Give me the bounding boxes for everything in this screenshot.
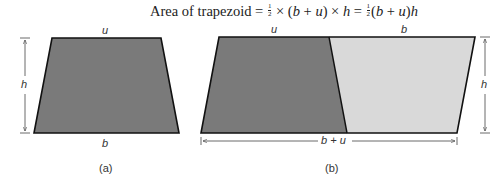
trapezoid-b-light bbox=[329, 37, 475, 133]
trapezoid-b-dark bbox=[201, 37, 347, 133]
caption-b: (b) bbox=[325, 162, 338, 174]
diagram-canvas bbox=[0, 0, 504, 184]
label-h-a: h bbox=[21, 78, 27, 90]
label-b-a: b bbox=[102, 137, 108, 149]
trapezoid-a bbox=[34, 38, 179, 133]
label-b-b: b bbox=[401, 23, 407, 35]
label-width-b: b + u bbox=[321, 134, 346, 146]
label-u-a: u bbox=[102, 24, 108, 36]
caption-a: (a) bbox=[99, 162, 112, 174]
label-h-b: h bbox=[481, 78, 487, 90]
label-u-b: u bbox=[271, 23, 277, 35]
